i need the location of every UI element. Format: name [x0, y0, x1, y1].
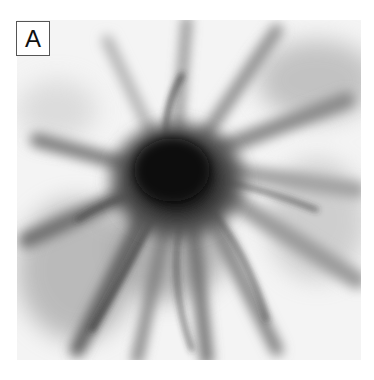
panel-label: A	[16, 21, 50, 56]
figure-image	[17, 20, 361, 360]
radial-structure-graphic	[17, 20, 361, 360]
